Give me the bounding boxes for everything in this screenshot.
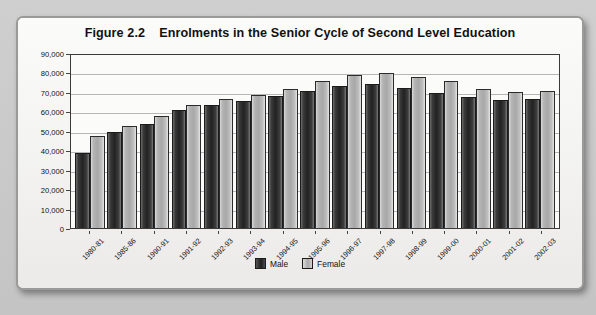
bar-female — [122, 126, 137, 228]
x-axis-tick-mark — [347, 231, 348, 234]
bar-group — [492, 55, 524, 228]
x-axis-tick-mark — [121, 231, 122, 234]
bar-group — [460, 55, 492, 228]
bar-male — [461, 97, 476, 228]
x-axis-tick: 1990-91 — [138, 231, 170, 277]
x-axis-tick: 2000-01 — [460, 231, 492, 277]
x-axis-tick: 1997-98 — [363, 231, 395, 277]
bar-male — [236, 101, 251, 228]
x-axis-tick: 1980-81 — [73, 231, 105, 277]
plot-area — [70, 54, 560, 229]
bar-female — [347, 75, 362, 228]
x-axis-tick-mark — [509, 231, 510, 234]
bar-group — [524, 55, 556, 228]
bar-female — [508, 92, 523, 228]
bar-group — [299, 55, 331, 228]
bar-group — [267, 55, 299, 228]
x-axis-tick: 1993-94 — [234, 231, 266, 277]
y-axis-tick-label: 90,000 — [18, 51, 64, 59]
bar-female — [283, 89, 298, 228]
x-axis-tick: 1995-96 — [299, 231, 331, 277]
x-axis-tick-mark — [250, 231, 251, 234]
y-axis-tick-label: 40,000 — [18, 148, 64, 156]
x-axis-tick-mark — [283, 231, 284, 234]
x-axis-tick-mark — [412, 231, 413, 234]
bar-male — [493, 100, 508, 228]
y-axis-tick-label: 20,000 — [18, 187, 64, 195]
x-axis-tick-mark — [476, 231, 477, 234]
x-axis-tick-mark — [444, 231, 445, 234]
bar-female — [186, 105, 201, 228]
x-axis-tick-mark — [218, 231, 219, 234]
x-axis-tick: 2002-03 — [525, 231, 557, 277]
x-axis-tick-mark — [315, 231, 316, 234]
bar-male — [397, 88, 412, 228]
bar-female — [154, 116, 169, 228]
bar-female — [90, 136, 105, 228]
bar-female — [444, 81, 459, 228]
x-axis-tick-mark — [541, 231, 542, 234]
figure-card: Figure 2.2Enrolments in the Senior Cycle… — [16, 16, 584, 290]
bar-group — [235, 55, 267, 228]
legend-item-male: Male — [255, 258, 288, 269]
y-axis-tick-label: 50,000 — [18, 129, 64, 137]
y-axis-tick-label: 0 — [18, 226, 64, 234]
bar-male — [172, 110, 187, 228]
y-axis-tick-label: 60,000 — [18, 109, 64, 117]
y-axis-tick-label: 70,000 — [18, 90, 64, 98]
bar-group — [106, 55, 138, 228]
bar-male — [204, 105, 219, 228]
x-axis-tick-mark — [186, 231, 187, 234]
legend-label-female: Female — [317, 259, 345, 269]
screenshot-page: Figure 2.2Enrolments in the Senior Cycle… — [0, 0, 596, 315]
x-axis-tick: 1992-93 — [202, 231, 234, 277]
bar-female — [540, 91, 555, 228]
bar-group — [138, 55, 170, 228]
bar-female — [219, 99, 234, 228]
x-axis-tick-mark — [380, 231, 381, 234]
bar-group — [170, 55, 202, 228]
legend-item-female: Female — [302, 258, 345, 269]
figure-card-surface: Figure 2.2Enrolments in the Senior Cycle… — [18, 18, 582, 288]
bar-group — [395, 55, 427, 228]
bar-male — [429, 93, 444, 228]
legend-swatch-female-icon — [302, 258, 313, 269]
bar-female — [315, 81, 330, 228]
y-axis-tick-label: 30,000 — [18, 168, 64, 176]
bar-group — [428, 55, 460, 228]
x-axis-tick-mark — [154, 231, 155, 234]
bar-series-container — [71, 55, 559, 228]
bar-group — [363, 55, 395, 228]
bar-male — [525, 99, 540, 228]
bar-female — [251, 95, 266, 228]
x-axis-labels: 1980-811985-861990-911991-921992-931993-… — [70, 231, 560, 277]
y-axis-tick-label: 10,000 — [18, 207, 64, 215]
bar-group — [331, 55, 363, 228]
x-axis-tick: 1985-86 — [105, 231, 137, 277]
x-axis-tick: 1994-95 — [267, 231, 299, 277]
bar-male — [300, 91, 315, 228]
bar-female — [379, 73, 394, 228]
bar-male — [268, 96, 283, 228]
y-axis-tick-mark — [66, 229, 70, 230]
bar-male — [107, 132, 122, 228]
bar-male — [140, 124, 155, 228]
bar-group — [203, 55, 235, 228]
chart-legend: Male Female — [18, 258, 582, 269]
bar-male — [332, 86, 347, 228]
x-axis-tick: 2001-02 — [492, 231, 524, 277]
bar-male — [75, 153, 90, 228]
bar-female — [476, 89, 491, 228]
bar-female — [411, 77, 426, 228]
x-axis-tick: 1998-99 — [396, 231, 428, 277]
legend-swatch-male-icon — [255, 258, 266, 269]
plot-wrapper: 90,00080,00070,00060,00050,00040,00030,0… — [18, 18, 582, 288]
x-axis-tick: 1999-00 — [428, 231, 460, 277]
legend-label-male: Male — [270, 259, 288, 269]
y-axis-tick-label: 80,000 — [18, 70, 64, 78]
bar-male — [365, 84, 380, 228]
x-axis-tick: 1991-92 — [170, 231, 202, 277]
bar-group — [74, 55, 106, 228]
x-axis-tick-mark — [89, 231, 90, 234]
x-axis-tick: 1996-97 — [331, 231, 363, 277]
